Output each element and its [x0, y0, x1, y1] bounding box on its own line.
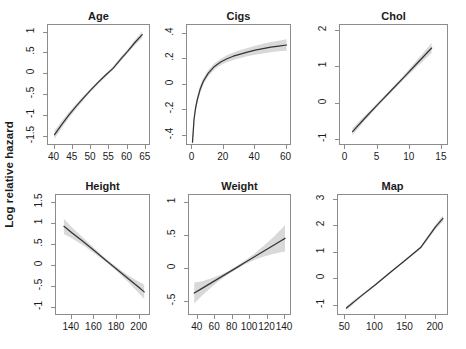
y-tick — [335, 30, 339, 31]
fit-line — [353, 48, 432, 132]
fit-line — [55, 35, 143, 135]
y-tick-label: 0 — [157, 77, 181, 88]
y-tick-label: -.2 — [157, 102, 181, 113]
x-tick-label: 60 — [121, 151, 132, 162]
y-tick — [182, 84, 186, 85]
y-tick-label: -1 — [308, 298, 332, 309]
x-tick — [72, 145, 73, 149]
y-tick — [43, 52, 47, 53]
x-tick-label: 65 — [139, 151, 150, 162]
x-tick — [405, 315, 406, 319]
x-tick — [286, 145, 287, 149]
x-tick — [435, 315, 436, 319]
x-tick-label: 40 — [249, 151, 260, 162]
y-tick — [43, 115, 47, 116]
plot-area-cigs — [186, 24, 291, 145]
x-tick — [344, 145, 345, 149]
y-tick — [182, 135, 186, 136]
y-tick-label: -1 — [18, 108, 42, 119]
plot-area-age — [47, 24, 150, 145]
y-tick — [182, 109, 186, 110]
y-tick-label: 2 — [310, 23, 334, 34]
x-tick — [374, 315, 375, 319]
panel-title-map: Map — [337, 180, 448, 192]
x-tick-label: 200 — [130, 321, 147, 332]
x-tick-label: 140 — [276, 321, 293, 332]
panel-cigs: Cigs — [186, 10, 291, 145]
fit-line — [194, 238, 285, 293]
figure-canvas: Log relative hazard Age Cigs Chol Height… — [0, 0, 466, 349]
y-tick — [51, 223, 55, 224]
y-tick-label: .5 — [26, 237, 50, 248]
x-tick-label: 0 — [189, 151, 195, 162]
confidence-band — [55, 31, 143, 139]
panel-height: Height — [55, 180, 150, 315]
y-tick-label: 0 — [310, 96, 334, 107]
y-tick-label: .5 — [18, 45, 42, 56]
x-tick-label: 180 — [108, 321, 125, 332]
x-tick — [267, 315, 268, 319]
y-tick — [51, 202, 55, 203]
y-tick-label: 0 — [26, 258, 50, 269]
y-tick — [43, 73, 47, 74]
y-tick-label: 2 — [308, 218, 332, 229]
x-tick-label: 50 — [339, 321, 350, 332]
y-tick — [184, 202, 188, 203]
y-tick — [335, 139, 339, 140]
plot-area-weight — [188, 194, 291, 315]
x-tick-label: 60 — [280, 151, 291, 162]
x-tick-label: 100 — [366, 321, 383, 332]
x-tick-label: 80 — [226, 321, 237, 332]
y-tick-label: -.4 — [157, 128, 181, 139]
x-tick — [284, 315, 285, 319]
y-tick-label: 0 — [308, 271, 332, 282]
y-tick — [184, 235, 188, 236]
y-tick — [51, 265, 55, 266]
fit-line — [64, 226, 144, 292]
panel-title-chol: Chol — [339, 10, 448, 22]
x-tick — [139, 315, 140, 319]
x-tick — [127, 145, 128, 149]
y-tick — [51, 244, 55, 245]
plot-area-chol — [339, 24, 448, 145]
panel-title-cigs: Cigs — [186, 10, 291, 22]
series-plot — [338, 195, 448, 315]
series-plot — [189, 195, 291, 315]
x-tick-label: 140 — [62, 321, 79, 332]
x-tick-label: 55 — [103, 151, 114, 162]
y-tick — [335, 66, 339, 67]
series-plot — [48, 25, 150, 145]
y-tick — [182, 33, 186, 34]
y-tick — [333, 199, 337, 200]
x-tick — [409, 145, 410, 149]
x-tick-label: 160 — [85, 321, 102, 332]
y-tick-label: 1 — [308, 245, 332, 256]
y-tick-label: 1 — [159, 195, 183, 206]
x-tick — [93, 315, 94, 319]
plot-area-height — [55, 194, 150, 315]
series-plot — [56, 195, 150, 315]
y-tick — [333, 252, 337, 253]
x-tick-label: 20 — [217, 151, 228, 162]
x-tick-label: 15 — [435, 151, 446, 162]
panel-title-weight: Weight — [188, 180, 291, 192]
y-tick — [43, 32, 47, 33]
y-tick-label: 1.5 — [26, 195, 50, 206]
x-tick-label: 10 — [403, 151, 414, 162]
x-tick — [377, 145, 378, 149]
x-tick — [108, 145, 109, 149]
y-tick-label: .2 — [157, 51, 181, 62]
panel-chol: Chol — [339, 10, 448, 145]
x-tick-label: 5 — [374, 151, 380, 162]
confidence-band — [194, 225, 285, 303]
x-tick — [71, 315, 72, 319]
plot-area-map — [337, 194, 448, 315]
x-tick — [191, 145, 192, 149]
y-tick — [184, 301, 188, 302]
x-tick-label: 120 — [258, 321, 275, 332]
x-tick-label: 100 — [241, 321, 258, 332]
y-tick — [51, 307, 55, 308]
x-tick — [223, 145, 224, 149]
series-plot — [187, 25, 291, 145]
x-tick — [344, 315, 345, 319]
